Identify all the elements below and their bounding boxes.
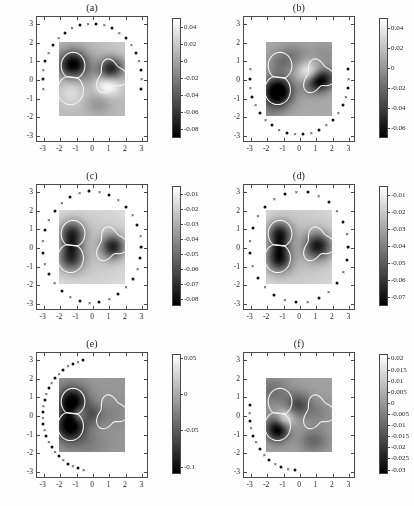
colorbar-tick-label: 0 [391,399,395,407]
sensor-marker-cross: × [98,191,101,194]
colorbar-tick-label: -0.02 [391,208,406,216]
sensor-marker-dot [136,224,139,227]
sensor-marker-dot [47,272,50,275]
sensor-marker-dot [251,95,254,98]
sensor-marker-dot [268,458,271,461]
sensor-marker-cross: × [278,128,281,131]
sensor-marker-cross: × [254,104,257,107]
colorbar-tick [181,394,183,395]
contour-figure-eight-lower [58,245,84,273]
sensor-marker-dot [293,469,296,472]
colorbar [172,18,181,138]
sensor-marker-cross: × [71,465,74,468]
sensor-marker-cross: × [347,77,350,80]
sensor-marker-dot [66,462,69,465]
sensor-marker-dot [88,190,91,193]
sensor-marker-dot [139,257,142,260]
sensor-marker-cross: × [317,194,320,197]
colorbar-tick [181,95,183,96]
sensor-marker-cross: × [325,124,328,127]
sensor-marker-cross: × [57,37,60,40]
sensor-marker-cross: × [293,133,296,136]
colorbar [379,186,388,306]
contour-figure-eight-upper [268,388,292,414]
colorbar-tick-label: 0.04 [391,24,403,32]
sensor-marker-dot [264,205,267,208]
sensor-marker-cross: × [50,381,53,384]
sensor-marker-dot [98,300,101,303]
sensor-marker-dot [283,192,286,195]
colorbar-tick-label: -0.08 [184,295,199,303]
sensor-marker-dot [41,78,44,81]
colorbar-tick [388,392,390,393]
sensor-marker-cross: × [117,198,120,201]
sensor-marker-cross: × [78,192,81,195]
sensor-marker-cross: × [71,27,74,30]
sensor-marker-dot [302,133,305,136]
sensor-marker-cross: × [47,219,50,222]
sensor-marker-cross: × [86,22,89,25]
colorbar-tick-label: -0.01 [391,191,406,199]
sensor-marker-cross: × [344,95,347,98]
panel-a: (a)-3-2-10123-3-2-10123×××××××××××0.040.… [0,2,207,170]
colorbar-tick-label: -0.015 [391,432,409,440]
sensor-marker-cross: × [347,246,350,249]
colorbar-tick [388,297,390,298]
sensor-marker-cross: × [248,239,251,242]
sensor-marker-dot [42,423,45,426]
colorbar-tick [181,269,183,270]
colorbar [379,354,388,474]
sensor-marker-dot [251,226,254,229]
sensor-marker-cross: × [131,214,134,217]
colorbar-tick [388,414,390,415]
sensor-marker-cross: × [43,429,46,432]
sensor-marker-cross: × [256,215,259,218]
colorbar-tick-label: 0.02 [391,354,403,362]
colorbar-tick-label: -0.005 [391,410,409,418]
sensor-marker-dot [44,60,47,63]
colorbar-tick [181,358,183,359]
contour-figure-eight-upper [61,220,85,246]
contour-figure-eight-upper [268,52,292,78]
colorbar-tick [388,108,390,109]
sensor-marker-cross: × [139,234,142,237]
panel-c: (c)-3-2-10123-3-2-10123××××××××××××××××-… [0,170,207,338]
contour-figure-eight-upper [268,220,292,246]
colorbar-tick-label: -0.05 [184,426,199,434]
sensor-marker-dot [342,221,345,224]
sensor-marker-cross: × [264,286,267,289]
sensor-marker-cross: × [60,202,63,205]
colorbar-tick-label: -0.06 [391,124,406,132]
sensor-marker-dot [346,86,349,89]
colorbar-tick [181,209,183,210]
colorbar-tick-label: -0.04 [184,235,199,243]
colorbar-tick-label: -0.03 [391,225,406,233]
colorbar-tick-label: 0.01 [391,377,403,385]
sensor-marker-cross: × [248,411,251,414]
figure-container: (a)-3-2-10123-3-2-10123×××××××××××0.040.… [0,0,414,506]
sensor-marker-dot [249,404,252,407]
colorbar-tick [388,358,390,359]
colorbar-tick [388,263,390,264]
sensor-marker-dot [110,27,113,30]
colorbar-tick-label: -0.06 [184,265,199,273]
sensor-marker-dot [134,51,137,54]
sensor-marker-cross: × [108,298,111,301]
colorbar-tick-label: -0.02 [391,84,406,92]
sensor-marker-dot [77,467,80,470]
sensor-marker-dot [117,293,120,296]
panel-d: (d)-3-2-10123-3-2-10123××××××××××××××-0.… [207,170,414,338]
colorbar-tick-label: -0.03 [391,466,406,474]
colorbar-tick-label: -0.01 [184,190,199,198]
sensor-marker-dot [124,37,127,40]
sensor-marker-dot [71,362,74,365]
sensor-marker-cross: × [41,240,44,243]
sensor-marker-cross: × [77,360,80,363]
contour-figure-eight-lower [58,413,84,441]
sensor-marker-cross: × [249,86,252,89]
sensor-marker-dot [82,359,85,362]
sensor-marker-cross: × [250,427,253,430]
colorbar-tick [388,447,390,448]
colorbar-tick [181,299,183,300]
sensor-marker-dot [47,387,50,390]
